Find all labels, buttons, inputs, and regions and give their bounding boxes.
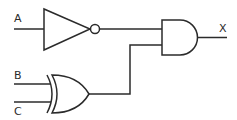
not-gate-bubble <box>91 25 100 34</box>
input-label-b: B <box>14 69 22 82</box>
logic-circuit-diagram: A B C X <box>0 0 237 120</box>
wire-xor-to-and <box>89 45 162 94</box>
xor-gate-body <box>52 75 89 113</box>
input-label-c: C <box>14 105 22 118</box>
not-gate-triangle <box>44 9 90 50</box>
input-label-a: A <box>14 12 22 25</box>
output-label-x: X <box>219 22 227 35</box>
not-gate <box>44 9 100 50</box>
xor-gate-extra-curve <box>47 75 52 113</box>
and-gate <box>162 20 197 55</box>
xor-gate <box>47 75 89 113</box>
